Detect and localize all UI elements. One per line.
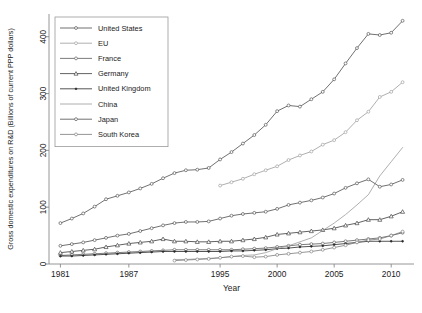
- y-tick-label: 0: [38, 261, 48, 266]
- data-point: [253, 256, 256, 259]
- data-point: [207, 167, 210, 170]
- x-tick-label: 1981: [51, 269, 70, 279]
- data-point: [82, 212, 85, 215]
- data-point: [105, 236, 108, 239]
- data-point: [173, 172, 176, 175]
- legend-box: [55, 17, 168, 147]
- data-point: [378, 96, 381, 99]
- data-point: [219, 256, 222, 259]
- data-point: [253, 134, 256, 137]
- data-point: [287, 104, 290, 107]
- data-point: [333, 246, 336, 249]
- data-point: [60, 255, 62, 257]
- data-point: [310, 150, 313, 153]
- data-point: [265, 249, 267, 251]
- data-point: [231, 250, 233, 252]
- chart-figure: 0100200300400198119871995200020052010Yea…: [0, 0, 422, 313]
- data-point: [367, 239, 370, 242]
- data-point: [150, 182, 153, 185]
- data-point: [116, 234, 119, 237]
- data-point: [230, 151, 233, 154]
- data-point: [276, 253, 279, 256]
- data-point: [127, 232, 130, 235]
- data-point: [321, 248, 324, 251]
- data-point: [162, 177, 165, 180]
- data-point: [356, 47, 359, 50]
- data-point: [322, 245, 324, 247]
- data-point: [367, 32, 370, 35]
- data-point: [298, 105, 301, 108]
- data-point: [230, 181, 233, 184]
- data-point: [344, 186, 347, 189]
- data-point: [333, 244, 335, 246]
- data-point: [184, 169, 187, 172]
- data-point: [128, 252, 130, 254]
- data-point: [321, 143, 324, 146]
- data-point: [390, 183, 393, 186]
- data-point: [139, 252, 141, 254]
- x-tick-label: 2005: [325, 269, 344, 279]
- data-point: [401, 210, 405, 214]
- data-point: [378, 185, 381, 188]
- legend-marker: [75, 57, 78, 60]
- data-point: [276, 165, 279, 168]
- x-axis-title: Year: [223, 283, 240, 293]
- data-point: [139, 187, 142, 190]
- data-point: [264, 169, 267, 172]
- data-point: [196, 251, 198, 253]
- legend-label: United Kingdom: [98, 84, 151, 93]
- data-point: [162, 251, 164, 253]
- data-point: [321, 242, 324, 245]
- y-tick-label: 300: [38, 86, 48, 100]
- data-point: [333, 78, 336, 81]
- legend-label: South Korea: [98, 130, 140, 139]
- data-point: [401, 19, 404, 22]
- data-point: [93, 205, 96, 208]
- legend-label: Japan: [98, 115, 118, 124]
- data-point: [264, 255, 267, 258]
- data-point: [390, 90, 393, 93]
- data-point: [390, 234, 393, 237]
- data-point: [356, 241, 359, 244]
- data-point: [173, 259, 176, 262]
- data-point: [310, 245, 312, 247]
- series-line: [60, 212, 402, 253]
- data-point: [356, 182, 359, 185]
- x-tick-label: 2010: [382, 269, 401, 279]
- data-point: [207, 220, 210, 223]
- data-point: [219, 184, 222, 187]
- data-point: [230, 214, 233, 217]
- data-point: [82, 255, 84, 257]
- data-point: [356, 119, 359, 122]
- data-point: [333, 139, 336, 142]
- data-point: [127, 191, 130, 194]
- data-point: [139, 230, 142, 233]
- x-tick-label: 1995: [211, 269, 230, 279]
- data-point: [150, 227, 153, 230]
- legend-marker: [75, 133, 78, 136]
- data-point: [116, 194, 119, 197]
- y-tick-label: 200: [38, 143, 48, 157]
- data-point: [310, 250, 313, 253]
- data-point: [344, 244, 347, 247]
- data-point: [401, 178, 404, 181]
- data-point: [219, 158, 222, 161]
- legend-label: China: [98, 100, 118, 109]
- data-point: [288, 247, 290, 249]
- data-point: [196, 168, 199, 171]
- data-point: [310, 98, 313, 101]
- data-point: [184, 259, 187, 262]
- data-point: [207, 257, 210, 260]
- data-point: [94, 254, 96, 256]
- data-point: [264, 123, 267, 126]
- data-point: [219, 217, 222, 220]
- data-point: [298, 251, 301, 254]
- y-axis-title: Gross domestic expenditures on R&D (Bill…: [6, 28, 15, 250]
- data-point: [117, 253, 119, 255]
- x-tick-label: 1987: [120, 269, 139, 279]
- data-point: [185, 251, 187, 253]
- series-eu: [219, 81, 404, 187]
- data-point: [184, 221, 187, 224]
- series-line: [60, 179, 402, 245]
- data-point: [298, 243, 301, 246]
